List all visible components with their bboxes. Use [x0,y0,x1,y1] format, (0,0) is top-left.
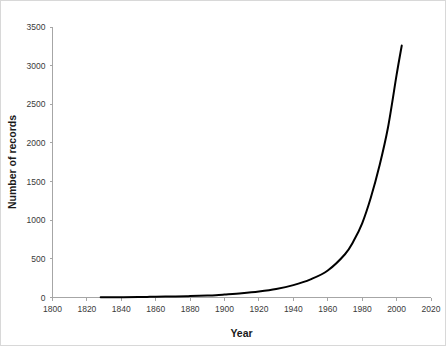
y-tick-label: 500 [31,254,45,264]
x-tick-group: 1800182018401860188019001920194019601980… [43,298,441,314]
y-tick-label: 1500 [27,177,46,187]
x-tick-label: 1840 [112,304,131,314]
y-tick-label: 3000 [27,61,46,71]
x-axis-group: 1800182018401860188019001920194019601980… [43,298,441,314]
y-tick-label: 2000 [27,138,46,148]
data-series-line [101,46,402,298]
y-tick-label: 1000 [27,215,46,225]
y-axis-title: Number of records [6,115,18,209]
y-tick-group: 0500100015002000250030003500 [27,22,53,303]
x-tick-label: 1820 [77,304,96,314]
y-tick-label: 2500 [27,99,46,109]
x-axis-title: Year [230,327,252,339]
x-tick-label: 1860 [146,304,165,314]
x-tick-label: 1960 [318,304,337,314]
x-tick-label: 1940 [284,304,303,314]
line-chart: 0500100015002000250030003500 18001820184… [1,1,446,346]
y-axis-group: 0500100015002000250030003500 [27,22,53,303]
y-tick-label: 0 [41,293,46,303]
x-tick-label: 1800 [43,304,62,314]
y-tick-label: 3500 [27,22,46,32]
x-tick-label: 1980 [353,304,372,314]
x-tick-label: 1880 [181,304,200,314]
x-tick-label: 1920 [249,304,268,314]
x-tick-label: 2000 [387,304,406,314]
x-tick-label: 2020 [422,304,441,314]
x-tick-label: 1900 [215,304,234,314]
chart-figure: 0500100015002000250030003500 18001820184… [0,0,446,346]
